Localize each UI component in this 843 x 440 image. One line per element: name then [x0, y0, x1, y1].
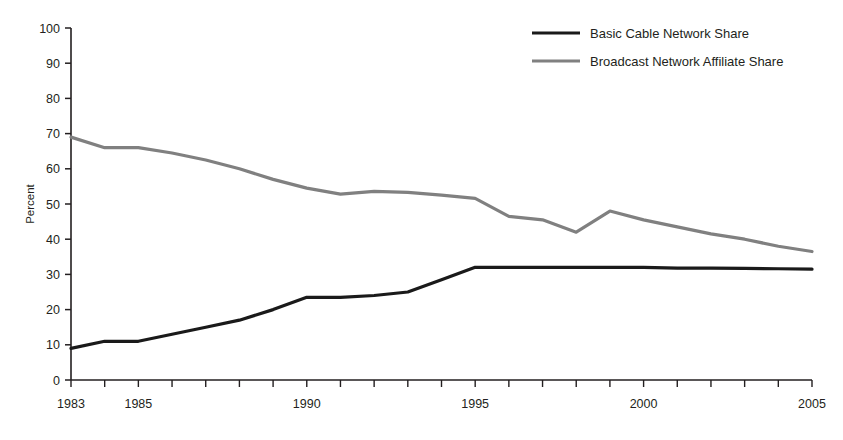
legend-label-broadcast-affiliate: Broadcast Network Affiliate Share [590, 54, 783, 69]
y-axis-tick-label: 100 [39, 22, 60, 36]
series-line-broadcast-network-affiliate-share [71, 137, 812, 251]
y-axis-tick-label: 80 [46, 92, 60, 106]
y-axis-tick-label: 20 [46, 303, 60, 317]
y-axis-tick-label: 70 [46, 127, 60, 141]
y-axis-tick-label: 40 [46, 233, 60, 247]
y-axis-tick-label: 50 [46, 198, 60, 212]
y-axis-tick-label: 90 [46, 57, 60, 71]
chart-container: 0102030405060708090100198319851990199520… [0, 0, 843, 440]
line-chart: 0102030405060708090100198319851990199520… [0, 0, 843, 440]
y-axis-tick-label: 10 [46, 338, 60, 352]
y-axis-tick-label: 60 [46, 162, 60, 176]
x-axis-tick-label: 2000 [630, 397, 658, 411]
series-line-basic-cable-network-share [71, 267, 812, 348]
legend-label-basic-cable: Basic Cable Network Share [590, 26, 749, 41]
y-axis-tick-label: 30 [46, 268, 60, 282]
x-axis-tick-label: 1995 [461, 397, 489, 411]
x-axis-tick-label: 1990 [293, 397, 321, 411]
x-axis-tick-label: 1983 [57, 397, 85, 411]
y-axis-title: Percent [24, 183, 36, 223]
x-axis-tick-label: 1985 [124, 397, 152, 411]
x-axis-tick-label: 2005 [798, 397, 826, 411]
y-axis-tick-label: 0 [53, 374, 60, 388]
